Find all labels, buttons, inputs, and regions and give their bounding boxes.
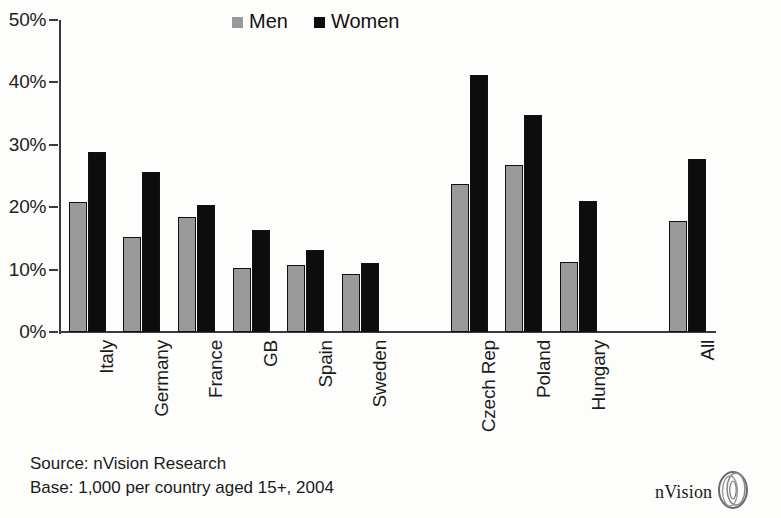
- bar-women-italy: [88, 152, 106, 332]
- bar-women-czech-rep: [470, 75, 488, 332]
- x-axis-label-sweden: Sweden: [369, 340, 391, 407]
- bar-chart: Men Women 0%10%20%30%40%50% ItalyGermany…: [0, 0, 781, 518]
- bar-women-poland: [524, 115, 542, 332]
- bar-women-all: [688, 159, 706, 332]
- x-axis-label-czech-rep: Czech Rep: [478, 340, 500, 432]
- x-axis-label-all: All: [697, 340, 719, 361]
- bar-men-hungary: [560, 262, 578, 333]
- bar-men-czech-rep: [451, 184, 469, 332]
- y-axis-tick-label: 40%: [9, 71, 46, 93]
- bar-men-gb: [233, 268, 251, 332]
- y-axis-tick-mark: [49, 144, 58, 146]
- y-axis-tick-label: 10%: [9, 259, 46, 281]
- x-axis-label-gb: GB: [260, 340, 282, 367]
- y-axis-tick-mark: [49, 81, 58, 83]
- bar-women-spain: [306, 250, 324, 332]
- brand-name: nVision: [655, 482, 712, 503]
- bar-women-germany: [142, 172, 160, 332]
- bar-men-germany: [123, 237, 141, 332]
- bar-men-italy: [69, 202, 87, 332]
- y-axis-tick-label: 50%: [9, 9, 46, 31]
- source-line: Source: nVision Research: [30, 452, 334, 476]
- chart-footnotes: Source: nVision Research Base: 1,000 per…: [30, 452, 334, 500]
- bar-women-gb: [252, 230, 270, 332]
- x-axis-label-germany: Germany: [151, 340, 173, 417]
- y-axis-tick-mark: [49, 331, 58, 333]
- bar-women-france: [197, 205, 215, 332]
- y-axis-tick-mark: [49, 206, 58, 208]
- bar-men-sweden: [342, 274, 360, 332]
- plot-area: [60, 20, 715, 332]
- y-axis-tick-label: 0%: [19, 321, 46, 343]
- bar-men-poland: [505, 165, 523, 332]
- bar-men-spain: [287, 265, 305, 332]
- y-axis-tick-mark: [49, 269, 58, 271]
- brand-mark: nVision: [655, 470, 750, 514]
- x-axis-label-italy: Italy: [96, 340, 118, 374]
- y-axis-tick-label: 20%: [9, 196, 46, 218]
- x-axis-label-hungary: Hungary: [588, 340, 610, 410]
- bar-women-hungary: [579, 201, 597, 332]
- bar-women-sweden: [361, 263, 379, 332]
- bar-men-all: [669, 221, 687, 332]
- y-axis-tick-mark: [49, 19, 58, 21]
- x-axis-label-poland: Poland: [533, 340, 555, 398]
- y-axis-tick-label: 30%: [9, 134, 46, 156]
- nvision-eye-logo-icon: [716, 470, 750, 514]
- bar-men-france: [178, 217, 196, 332]
- base-line: Base: 1,000 per country aged 15+, 2004: [30, 476, 334, 500]
- x-axis-label-spain: Spain: [315, 340, 337, 388]
- x-axis-label-france: France: [205, 340, 227, 398]
